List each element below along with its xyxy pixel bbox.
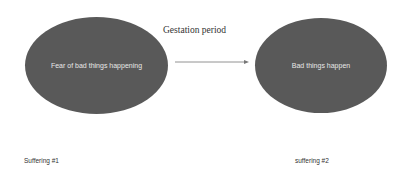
node-bad-things: Bad things happen xyxy=(255,18,387,113)
gestation-period-label: Gestation period xyxy=(163,25,226,35)
node-fear: Fear of bad things happening xyxy=(25,17,168,114)
node-fear-text: Fear of bad things happening xyxy=(51,62,142,69)
arrow-icon xyxy=(174,57,250,67)
caption-suffering-2: suffering #2 xyxy=(295,157,329,164)
node-bad-things-text: Bad things happen xyxy=(292,62,350,69)
caption-suffering-1: Suffering #1 xyxy=(24,157,59,164)
